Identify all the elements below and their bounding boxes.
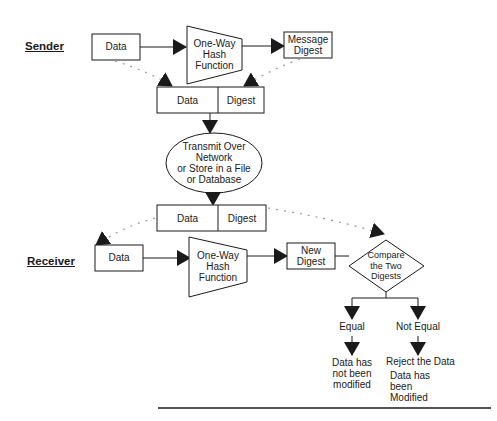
not-equal-result-text: Reject the Data <box>386 356 454 367</box>
transport-text: Transmit Over Network or Store in a File… <box>166 141 262 185</box>
sender-combined-data-text: Data <box>157 95 218 106</box>
receiver-data-text: Data <box>95 252 143 263</box>
sender-label: Sender <box>25 40 64 52</box>
receiver-new-digest-text: New Digest <box>287 245 335 267</box>
not-equal-label: Not Equal <box>390 321 446 332</box>
received-combined-digest-text: Digest <box>218 213 266 224</box>
equal-label: Equal <box>330 321 374 332</box>
dotted-combined-to-receiver-data <box>96 218 155 245</box>
sender-data-text: Data <box>92 41 140 52</box>
equal-result-text: Data has not been modified <box>322 357 382 390</box>
sender-combined-digest-text: Digest <box>218 95 264 106</box>
not-equal-detail-text: Data has been Modified <box>390 370 454 403</box>
receiver-label: Receiver <box>27 255 75 267</box>
sender-hash-text: One-Way Hash Function <box>187 38 242 71</box>
dotted-data-to-combined <box>115 61 172 86</box>
compare-text: Compare the Two Digests <box>352 250 420 282</box>
dotted-combined-to-compare <box>268 208 384 234</box>
sender-digest-text: Message Digest <box>284 34 332 56</box>
receiver-hash-text: One-Way Hash Function <box>189 250 247 283</box>
dotted-digest-to-combined <box>244 59 300 86</box>
received-combined-data-text: Data <box>157 213 218 224</box>
